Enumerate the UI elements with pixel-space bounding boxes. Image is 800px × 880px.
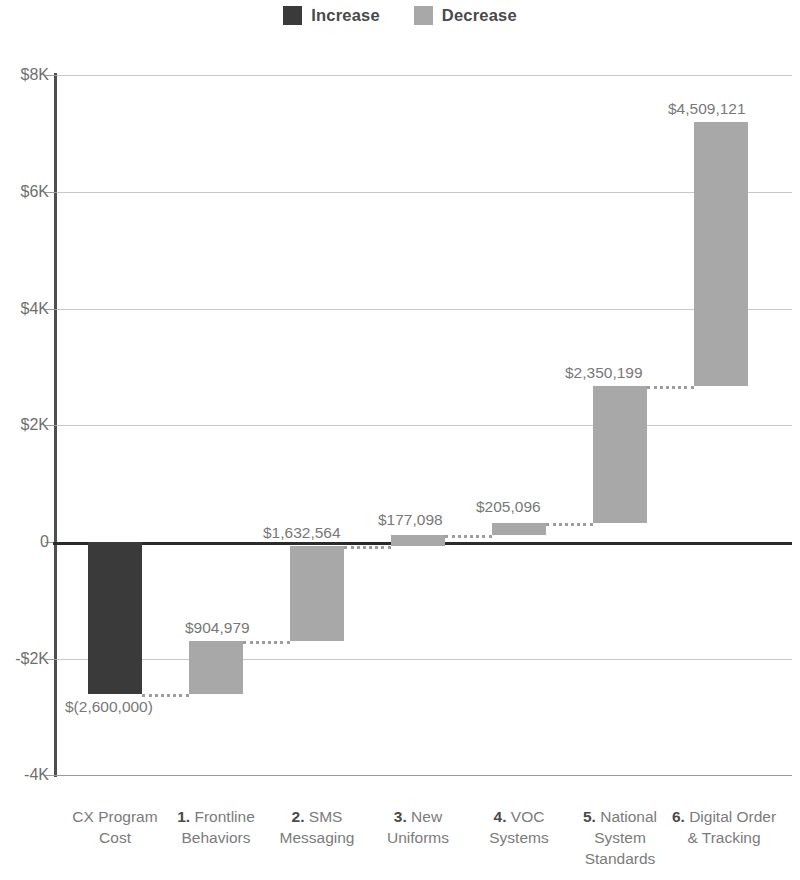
- gridline-4k: [57, 309, 792, 310]
- gridline-8k: [57, 75, 792, 76]
- bar-voc-systems[interactable]: [492, 523, 546, 535]
- ytick-label-neg4k: -4K: [0, 767, 49, 783]
- gridline-neg2k: [57, 659, 792, 660]
- bar-national-system-standards[interactable]: [593, 386, 647, 523]
- gridline-6k: [57, 192, 792, 193]
- connector-1: [142, 694, 189, 697]
- xcat-name-0: CX Program Cost: [72, 808, 157, 846]
- x-axis-line: [57, 775, 792, 776]
- xcat-cx-program-cost: CX Program Cost: [65, 806, 165, 848]
- xcat-frontline-behaviors: 1. Frontline Behaviors: [166, 806, 266, 848]
- xcat-digital-order-tracking: 6. Digital Order & Tracking: [671, 806, 777, 848]
- xcat-national-system-standards: 5. National System Standards: [570, 806, 670, 869]
- connector-6: [647, 386, 694, 389]
- connector-4: [445, 535, 492, 538]
- xcat-new-uniforms: 3. New Uniforms: [368, 806, 468, 848]
- chart-legend: Increase Decrease: [0, 6, 800, 25]
- bar-label-digital-order-tracking: $4,509,121: [668, 101, 746, 117]
- bar-label-voc-systems: $205,096: [476, 499, 541, 515]
- bar-new-uniforms[interactable]: [391, 535, 445, 546]
- xcat-num-5: 5.: [583, 808, 596, 825]
- bar-digital-order-tracking[interactable]: [694, 122, 748, 386]
- xcat-name-6: Digital Order & Tracking: [687, 808, 776, 846]
- ytick-label-8k: $8K: [0, 67, 49, 83]
- bar-label-national-system-standards: $2,350,199: [565, 365, 643, 381]
- legend-swatch-increase: [283, 6, 302, 25]
- ytick-label-neg2k: -$2K: [0, 651, 49, 667]
- bar-label-cx-program-cost: $(2,600,000): [65, 699, 153, 715]
- connector-5: [546, 523, 593, 526]
- bar-label-new-uniforms: $177,098: [378, 512, 443, 528]
- xcat-voc-systems: 4. VOC Systems: [469, 806, 569, 848]
- xcat-num-2: 2.: [292, 808, 305, 825]
- bar-frontline-behaviors[interactable]: [189, 641, 243, 694]
- waterfall-chart: Increase Decrease $8K $6K $4K $2K 0 -$2K…: [0, 0, 800, 880]
- bar-label-frontline-behaviors: $904,979: [185, 620, 250, 636]
- xcat-num-1: 1.: [177, 808, 190, 825]
- legend-label-increase: Increase: [311, 6, 380, 25]
- legend-item-decrease[interactable]: Decrease: [414, 6, 517, 25]
- ytick-label-4k: $4K: [0, 301, 49, 317]
- ytick-label-6k: $6K: [0, 184, 49, 200]
- bar-cx-program-cost[interactable]: [88, 542, 142, 694]
- xcat-name-1: Frontline Behaviors: [182, 808, 255, 846]
- legend-swatch-decrease: [414, 6, 433, 25]
- ytick-label-2k: $2K: [0, 417, 49, 433]
- legend-label-decrease: Decrease: [442, 6, 517, 25]
- plot-area: $8K $6K $4K $2K 0 -$2K -4K $(2,600,000) …: [57, 75, 792, 775]
- connector-3: [344, 546, 391, 549]
- gridline-2k: [57, 425, 792, 426]
- xcat-sms-messaging: 2. SMS Messaging: [267, 806, 367, 848]
- bar-sms-messaging[interactable]: [290, 546, 344, 641]
- legend-item-increase[interactable]: Increase: [283, 6, 380, 25]
- connector-2: [243, 641, 290, 644]
- xcat-num-3: 3.: [394, 808, 407, 825]
- x-axis-labels: CX Program Cost 1. Frontline Behaviors 2…: [57, 806, 792, 880]
- xcat-num-6: 6.: [672, 808, 685, 825]
- xcat-num-4: 4.: [494, 808, 507, 825]
- xcat-name-5: National System Standards: [585, 808, 657, 867]
- bar-label-sms-messaging: $1,632,564: [263, 525, 341, 541]
- ytick-label-0: 0: [0, 534, 49, 550]
